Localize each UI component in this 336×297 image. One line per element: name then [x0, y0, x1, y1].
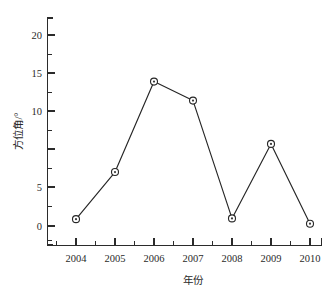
data-point-center — [114, 171, 116, 173]
line-chart: 20 15 10 5 0 方位角/° 2004 — [0, 0, 336, 297]
y-axis-minor-ticks — [48, 54, 53, 240]
x-axis-title: 年份 — [183, 274, 204, 286]
y-tick-label-20: 20 — [32, 30, 43, 41]
series-markers — [73, 78, 314, 227]
x-tick-label-2009: 2009 — [261, 253, 282, 264]
x-tick-label-2005: 2005 — [105, 253, 126, 264]
data-point-center — [270, 143, 272, 145]
y-tick-label-10: 10 — [32, 106, 43, 117]
y-tick-label-5: 5 — [37, 182, 42, 193]
y-tick-label-0: 0 — [37, 221, 42, 232]
data-point-center — [75, 218, 77, 220]
chart-figure: 20 15 10 5 0 方位角/° 2004 — [0, 0, 336, 297]
y-axis-spine — [48, 18, 54, 245]
data-point-center — [231, 217, 233, 219]
x-tick-label-2007: 2007 — [183, 253, 204, 264]
data-point-center — [309, 223, 311, 225]
x-tick-label-2004: 2004 — [66, 253, 88, 264]
x-tick-label-2006: 2006 — [144, 253, 165, 264]
y-axis-title: 方位角/° — [12, 112, 24, 149]
x-tick-label-2010: 2010 — [300, 253, 321, 264]
y-tick-label-15: 15 — [32, 68, 43, 79]
x-axis-major-ticks — [76, 238, 322, 246]
x-axis-minor-ticks — [57, 241, 291, 246]
x-tick-label-2008: 2008 — [222, 253, 243, 264]
data-point-center — [153, 81, 155, 83]
data-point-center — [192, 100, 194, 102]
